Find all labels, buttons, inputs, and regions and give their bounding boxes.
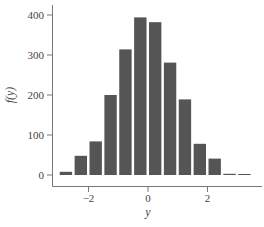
histogram-bar xyxy=(164,63,176,175)
histogram-bar xyxy=(60,172,72,175)
x-ticks-group: −202 xyxy=(83,187,211,205)
histogram-bar xyxy=(209,159,221,175)
histogram-bar xyxy=(149,22,161,175)
histogram-bar xyxy=(90,141,102,175)
y-tick-label: 400 xyxy=(28,9,45,21)
bars-group xyxy=(60,17,251,175)
y-tick-label: 0 xyxy=(39,169,45,181)
histogram-bar xyxy=(104,95,116,175)
y-tick-label: 200 xyxy=(28,89,45,101)
histogram-bar xyxy=(179,99,191,175)
histogram-bar xyxy=(223,174,235,175)
y-ticks-group: 0100200300400 xyxy=(28,9,53,181)
y-axis-label: f(y) xyxy=(3,87,17,104)
histogram-chart: 0100200300400 −202 f(y) y xyxy=(0,0,264,227)
histogram-bar xyxy=(238,174,250,175)
x-axis-label: y xyxy=(144,205,151,219)
histogram-bar xyxy=(75,156,87,175)
x-tick-label: 0 xyxy=(145,192,151,204)
x-tick-label: 2 xyxy=(205,192,211,204)
y-tick-label: 100 xyxy=(28,129,45,141)
histogram-bar xyxy=(119,49,131,175)
y-tick-label: 300 xyxy=(28,49,45,61)
histogram-bar xyxy=(194,144,206,175)
histogram-bar xyxy=(134,17,146,175)
x-tick-label: −2 xyxy=(83,192,95,204)
